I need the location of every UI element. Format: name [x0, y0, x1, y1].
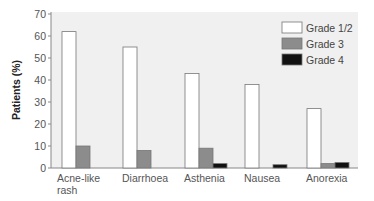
legend: Grade 1/2Grade 3Grade 4 — [282, 22, 353, 66]
x-tick-label: Acne-like — [57, 172, 100, 184]
bar — [321, 164, 335, 168]
y-tick-label: 30 — [34, 96, 46, 108]
bar — [335, 163, 349, 169]
bar — [245, 84, 259, 168]
y-tick-label: 0 — [40, 162, 46, 174]
y-tick-label: 60 — [34, 30, 46, 42]
y-tick-label: 50 — [34, 52, 46, 64]
y-axis-label: Patients (%) — [10, 60, 22, 120]
legend-label: Grade 3 — [306, 38, 344, 50]
legend-swatch — [282, 22, 302, 33]
bar — [199, 148, 213, 168]
legend-label: Grade 4 — [306, 54, 344, 66]
x-tick-label: Nausea — [244, 172, 280, 184]
y-tick-label: 40 — [34, 74, 46, 86]
legend-swatch — [282, 38, 302, 49]
bar — [62, 32, 76, 168]
y-tick-label: 20 — [34, 118, 46, 130]
y-tick-label: 10 — [34, 140, 46, 152]
legend-swatch — [282, 54, 302, 65]
bar — [123, 47, 137, 168]
x-axis-labels: Acne-likerashDiarrhoeaAstheniaNauseaAnor… — [57, 172, 348, 196]
bar-chart: 010203040506070 Patients (%) Acne-likera… — [0, 0, 374, 201]
x-tick-label: Anorexia — [306, 172, 348, 184]
x-tick-label: rash — [57, 184, 78, 196]
x-tick-label: Asthenia — [184, 172, 225, 184]
bar — [307, 109, 321, 168]
bar — [137, 150, 151, 168]
y-tick-label: 70 — [34, 8, 46, 20]
legend-label: Grade 1/2 — [306, 22, 353, 34]
bar — [76, 146, 90, 168]
bar — [273, 165, 287, 168]
x-tick-label: Diarrhoea — [122, 172, 168, 184]
bar — [213, 164, 227, 168]
bar — [185, 73, 199, 168]
